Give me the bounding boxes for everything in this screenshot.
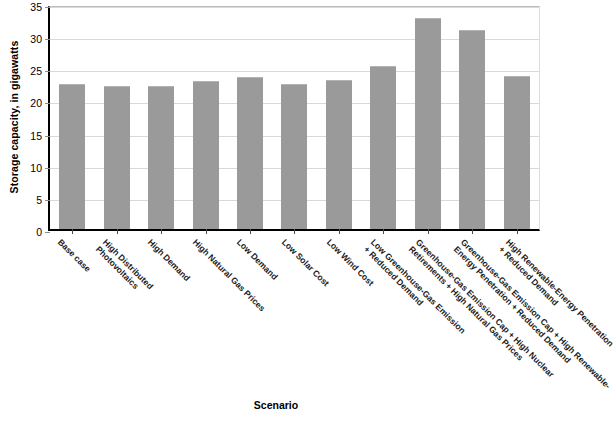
bar-7 xyxy=(370,66,396,229)
bar-8 xyxy=(415,18,441,229)
x-tick-mark xyxy=(472,229,473,234)
x-label-line-1: High Natural Gas Prices xyxy=(190,237,266,313)
bar-10 xyxy=(504,76,530,229)
y-tick-label: 35 xyxy=(30,1,42,13)
bar-slot xyxy=(139,7,183,229)
x-label-line-1: Base case xyxy=(56,237,93,274)
x-label-line-1: Low Demand xyxy=(235,237,280,282)
y-tick-label: 5 xyxy=(36,194,42,206)
x-axis-label-0: Base case xyxy=(56,237,93,274)
bar-slot xyxy=(50,7,94,229)
y-tick-label: 15 xyxy=(30,130,42,142)
y-tick-label: 25 xyxy=(30,65,42,77)
bar-9 xyxy=(459,30,485,229)
bar-3 xyxy=(193,81,219,229)
bar-6 xyxy=(326,80,352,229)
y-tick-label: 10 xyxy=(30,162,42,174)
x-axis-title: Scenario xyxy=(0,399,552,411)
bar-slot xyxy=(317,7,361,229)
bar-2 xyxy=(148,86,174,229)
x-tick-mark xyxy=(72,229,73,234)
x-tick-mark xyxy=(339,229,340,234)
x-label-line-2: + Reduced Demand xyxy=(362,244,461,343)
x-tick-mark xyxy=(383,229,384,234)
x-axis-category-labels: Base caseHigh DistributedPhotovoltaicsHi… xyxy=(48,237,540,387)
bar-1 xyxy=(104,86,130,229)
x-label-line-1: Low Solar Cost xyxy=(280,237,331,288)
bar-slot xyxy=(495,7,539,229)
x-axis-label-5: Low Solar Cost xyxy=(280,237,331,288)
y-tick-label: 30 xyxy=(30,33,42,45)
y-tick-label: 20 xyxy=(30,97,42,109)
bar-0 xyxy=(59,84,85,229)
x-tick-mark xyxy=(517,229,518,234)
bar-slot xyxy=(183,7,227,229)
x-tick-mark xyxy=(117,229,118,234)
bar-5 xyxy=(281,84,307,229)
bar-slot xyxy=(450,7,494,229)
x-tick-mark xyxy=(206,229,207,234)
x-axis-label-2: High Demand xyxy=(146,237,192,283)
x-tick-mark xyxy=(250,229,251,234)
x-tick-mark xyxy=(428,229,429,234)
x-tick-mark xyxy=(161,229,162,234)
y-axis-title: Storage capacity, in gigawatts xyxy=(8,7,20,227)
x-tick-mark xyxy=(294,229,295,234)
bar-slot xyxy=(94,7,138,229)
plot-area: 05101520253035 xyxy=(48,6,540,231)
y-tick-label: 0 xyxy=(36,226,42,238)
x-axis-label-3: High Natural Gas Prices xyxy=(190,237,266,313)
bar-4 xyxy=(237,77,263,229)
x-label-line-1: High Demand xyxy=(146,237,192,283)
x-axis-label-4: Low Demand xyxy=(235,237,280,282)
bar-slot xyxy=(228,7,272,229)
x-axis-label-1: High DistributedPhotovoltaics xyxy=(94,237,156,299)
y-tick-mark xyxy=(45,232,50,233)
bar-slot xyxy=(406,7,450,229)
bars-container xyxy=(50,7,539,229)
bar-slot xyxy=(361,7,405,229)
bar-slot xyxy=(272,7,316,229)
